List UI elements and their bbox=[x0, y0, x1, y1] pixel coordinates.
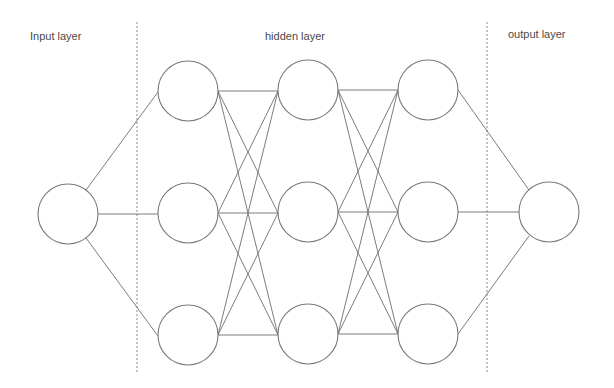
input-node bbox=[38, 184, 98, 244]
neural-network-diagram: Input layer hidden layer output layer bbox=[0, 0, 614, 388]
edges-hidden2-to-hidden3 bbox=[338, 90, 398, 334]
edges-hidden1-to-hidden2 bbox=[218, 91, 278, 335]
hidden-layer-3 bbox=[398, 60, 458, 364]
hidden-node bbox=[398, 304, 458, 364]
hidden-node bbox=[158, 305, 218, 365]
hidden-layer-1 bbox=[158, 61, 218, 365]
hidden-node bbox=[278, 304, 338, 364]
hidden-node bbox=[278, 60, 338, 120]
hidden-node bbox=[278, 182, 338, 242]
hidden-node bbox=[158, 61, 218, 121]
edges-hidden3-to-output bbox=[458, 90, 529, 334]
output-node bbox=[519, 182, 579, 242]
hidden-node bbox=[398, 60, 458, 120]
hidden-node bbox=[158, 183, 218, 243]
hidden-node bbox=[398, 182, 458, 242]
hidden-layer-2 bbox=[278, 60, 338, 364]
output-layer-label: output layer bbox=[508, 28, 566, 40]
hidden-layer-label: hidden layer bbox=[265, 30, 325, 42]
input-layer-label: Input layer bbox=[30, 30, 82, 42]
